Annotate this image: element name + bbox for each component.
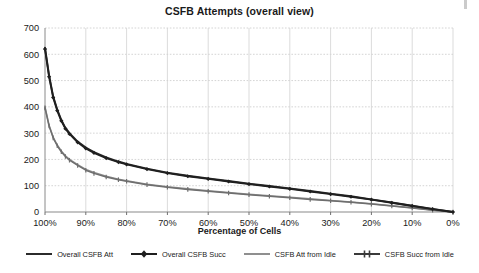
legend-item-3[interactable]: CSFB Succ from Idle (353, 249, 454, 259)
y-tick-label: 700 (24, 23, 39, 33)
legend-label-0: Overall CSFB Att (57, 250, 113, 259)
legend-item-2[interactable]: CSFB Att from Idle (243, 249, 336, 259)
plot-area: 0100200300400500600700100%90%80%70%60%50… (0, 0, 479, 240)
chart-legend: Overall CSFB Att Overall CSFB Succ CSFB … (0, 246, 479, 262)
legend-marker-diamond-icon (130, 249, 158, 259)
series-marker-1 (451, 210, 455, 214)
series-marker-1 (390, 201, 394, 205)
legend-label-1: Overall CSFB Succ (162, 250, 226, 259)
chart-container: CSFB Attempts (overall view) 01002003004… (0, 0, 479, 273)
legend-marker-tick-icon (353, 249, 381, 259)
legend-marker-line-icon (25, 249, 53, 259)
legend-label-2: CSFB Att from Idle (275, 250, 336, 259)
y-tick-label: 0 (34, 207, 39, 217)
y-tick-label: 100 (24, 181, 39, 191)
legend-label-3: CSFB Succ from Idle (385, 250, 454, 259)
series-marker-1 (369, 198, 373, 202)
x-axis-title: Percentage of Cells (0, 226, 479, 236)
y-tick-label: 600 (24, 50, 39, 60)
y-tick-label: 300 (24, 129, 39, 139)
chart-svg: 0100200300400500600700100%90%80%70%60%50… (0, 0, 479, 240)
y-tick-label: 400 (24, 102, 39, 112)
series-marker-1 (43, 47, 47, 51)
y-tick-label: 200 (24, 155, 39, 165)
legend-marker-line-gray-icon (243, 249, 271, 259)
legend-item-0[interactable]: Overall CSFB Att (25, 249, 113, 259)
y-tick-label: 500 (24, 76, 39, 86)
legend-item-1[interactable]: Overall CSFB Succ (130, 249, 226, 259)
